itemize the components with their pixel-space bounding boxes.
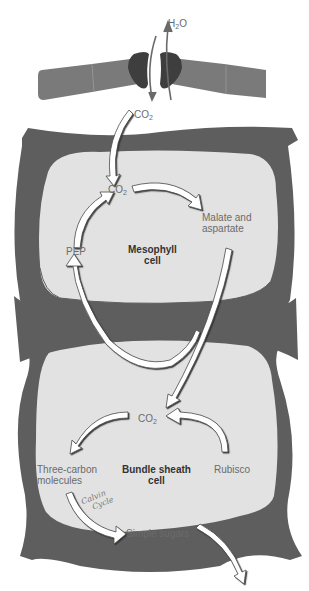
c4-pathway-diagram xyxy=(0,0,309,591)
water-label: H2O xyxy=(168,18,187,32)
rubisco-label: Rubisco xyxy=(214,464,250,475)
three-carbon-label: Three-carbon molecules xyxy=(37,464,97,486)
mesophyll-co2-label: CO2 xyxy=(108,184,127,198)
malate-aspartate-label: Malate and aspartate xyxy=(202,212,251,234)
pep-label: PEP xyxy=(66,246,86,257)
mesophyll-cell-label: Mesophyll cell xyxy=(128,244,177,266)
bundle-sheath-cell-label: Bundle sheath cell xyxy=(122,464,191,486)
bundle-co2-label: CO2 xyxy=(138,413,157,427)
simple-sugars-label: Simple sugars xyxy=(126,528,189,539)
mesophyll-cell xyxy=(14,127,298,340)
co2-atmospheric-label: CO2 xyxy=(134,109,153,123)
